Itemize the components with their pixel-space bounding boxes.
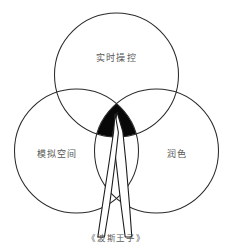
circle-label-right: 润色	[140, 147, 214, 160]
circle-label-left: 模拟空间	[18, 147, 96, 160]
venn-diagram: 实时操控 模拟空间 润色 《波斯王子》	[0, 0, 233, 248]
circle-label-top: 实时操控	[0, 51, 233, 64]
venn-diagram-canvas	[0, 0, 233, 248]
diagram-caption: 《波斯王子》	[0, 231, 233, 243]
